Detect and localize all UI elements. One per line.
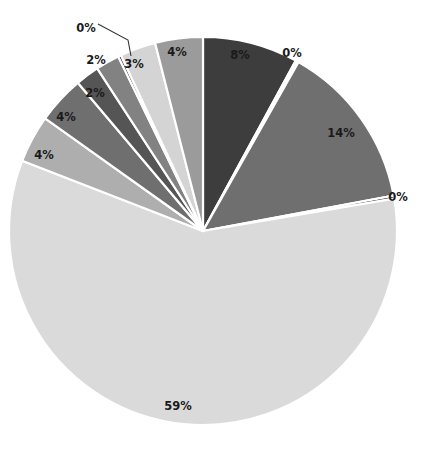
pie-chart-svg: 8%0%14%0%59%4%4%2%2%0%3%4% — [0, 0, 422, 454]
pie-slice-group — [9, 37, 397, 425]
pie-slice-percent-label: 0% — [282, 46, 302, 60]
pie-slice-percent-label: 0% — [388, 190, 408, 204]
pie-slice-percent-label: 0% — [76, 21, 96, 35]
pie-slice-percent-label: 3% — [124, 57, 144, 71]
pie-slice-percent-label: 4% — [34, 148, 54, 162]
pie-slice-percent-label: 2% — [85, 86, 105, 100]
label-leader-line — [98, 24, 131, 56]
leader-line-group — [98, 24, 131, 56]
pie-slice-percent-label: 14% — [327, 126, 355, 140]
pie-slice-percent-label: 59% — [164, 399, 192, 413]
pie-slice-percent-label: 8% — [230, 48, 250, 62]
pie-slice-percent-label: 2% — [86, 53, 106, 67]
pie-slice-percent-label: 4% — [56, 110, 76, 124]
pie-slice-percent-label: 4% — [167, 45, 187, 59]
pie-chart-figure: 8%0%14%0%59%4%4%2%2%0%3%4% — [0, 0, 422, 454]
